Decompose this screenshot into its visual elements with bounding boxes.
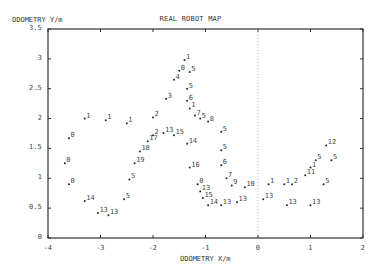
- data-point-label: 14: [86, 194, 94, 202]
- x-tick-label: -4: [44, 244, 52, 252]
- y-tick-label: 3: [38, 54, 42, 62]
- data-point-label: 1: [270, 177, 274, 185]
- data-point-label: 5: [131, 172, 135, 180]
- data-point-label: 15: [176, 128, 184, 136]
- data-point-label: 1: [191, 101, 195, 109]
- axes-frame: [48, 29, 363, 238]
- data-point-label: 10: [246, 180, 254, 188]
- data-point-label: 1: [128, 116, 132, 124]
- data-point-label: 18: [141, 144, 149, 152]
- data-point-label: 7: [228, 171, 232, 179]
- data-point-label: 19: [136, 156, 144, 164]
- data-point-label: 13: [265, 192, 273, 200]
- data-point-label: 2: [155, 128, 159, 136]
- data-point-label: 7: [197, 109, 201, 117]
- data-point-label: 1: [312, 161, 316, 169]
- data-point-label: 13: [165, 126, 173, 134]
- data-point-label: 5: [333, 153, 337, 161]
- data-point-label: 2: [294, 177, 298, 185]
- data-point-label: 6: [223, 158, 227, 166]
- data-point-label: 5: [126, 192, 130, 200]
- data-point-label: 0: [71, 131, 75, 139]
- data-point-label: 5: [317, 153, 321, 161]
- data-point-label: 5: [325, 177, 329, 185]
- data-point-label: 11: [307, 168, 315, 176]
- x-tick-label: 2: [361, 244, 365, 252]
- x-tick-label: -1: [201, 244, 209, 252]
- data-point-label: 5: [223, 125, 227, 133]
- data-point-label: 5: [189, 82, 193, 90]
- data-point-label: 5: [191, 65, 195, 73]
- data-point-label: 1: [107, 113, 111, 121]
- data-point-label: 3: [168, 92, 172, 100]
- data-point-label: 13: [239, 195, 247, 203]
- data-point-label: 13: [288, 198, 296, 206]
- y-tick-label: 0.5: [29, 203, 42, 211]
- y-tick-label: 2.5: [29, 84, 42, 92]
- x-tick-label: 0: [256, 244, 260, 252]
- data-point-label: 0: [181, 64, 185, 72]
- data-point-label: 16: [191, 161, 199, 169]
- data-point-label: 14: [210, 198, 218, 206]
- y-tick-label: 2: [38, 114, 42, 122]
- x-tick-label: 1: [308, 244, 312, 252]
- data-point-label: 0: [66, 156, 70, 164]
- data-point-label: 14: [189, 137, 197, 145]
- data-point-label: 13: [99, 206, 107, 214]
- data-point-label: 13: [110, 208, 118, 216]
- data-point-label: 1: [186, 53, 190, 61]
- x-tick-label: -3: [96, 244, 104, 252]
- data-point-label: 13: [223, 198, 231, 206]
- data-point-label: 0: [71, 177, 75, 185]
- data-point-label: 5: [223, 143, 227, 151]
- y-tick-label: 1: [38, 173, 42, 181]
- data-point-label: 2: [155, 110, 159, 118]
- x-tick-label: -2: [149, 244, 157, 252]
- data-point-label: 1: [86, 112, 90, 120]
- y-tick-label: 1.5: [29, 143, 42, 151]
- data-point-label: 1: [286, 177, 290, 185]
- data-point-label: 5: [202, 112, 206, 120]
- data-point-label: 13: [312, 198, 320, 206]
- data-point-label: 12: [328, 138, 336, 146]
- y-tick-label: 0: [38, 233, 42, 241]
- data-point-label: 4: [176, 73, 180, 81]
- data-point-label: 8: [210, 115, 214, 123]
- data-point-label: 9: [233, 178, 237, 186]
- y-tick-label: 3.5: [29, 24, 42, 32]
